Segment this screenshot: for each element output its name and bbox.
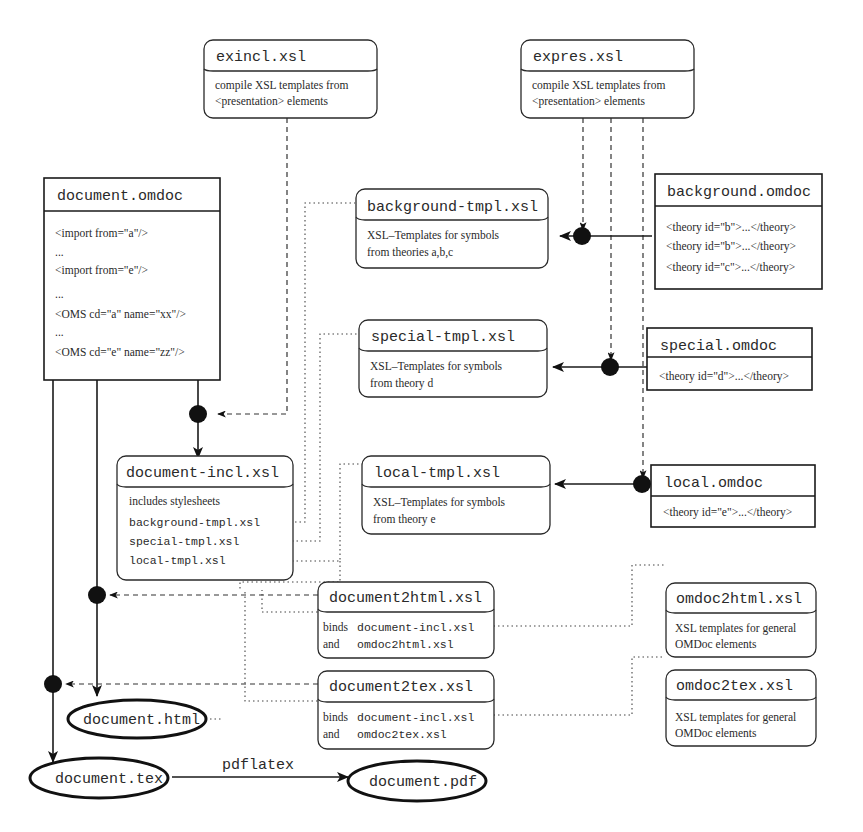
local-tmpl-box: local-tmpl.xsl XSL–Templates for symbols… <box>362 456 550 534</box>
omdoc-xsl-pipeline-diagram: pdflatex exincl.xsl compile XSL template… <box>0 0 863 832</box>
omdoc-line: ... <box>55 246 64 258</box>
document-incl-heading: includes stylesheets <box>129 495 221 508</box>
exincl-title: exincl.xsl <box>216 49 306 66</box>
include-item: special-tmpl.xsl <box>129 535 240 548</box>
incl-background-ref <box>295 203 355 522</box>
background-omdoc-title: background.omdoc <box>667 184 811 201</box>
omdoc2tex-box: omdoc2tex.xsl XSL templates for general … <box>666 670 816 746</box>
binds-target: document-incl.xsl <box>357 621 474 634</box>
omdoc2tex-title: omdoc2tex.xsl <box>676 678 793 695</box>
junction-dot <box>573 227 591 245</box>
background-omdoc-line: <theory id="c">...</theory> <box>666 261 795 274</box>
omdoc2tex-line-1: XSL templates for general <box>675 711 796 724</box>
document-pdf-label: document.pdf <box>369 774 477 791</box>
include-item: background-tmpl.xsl <box>129 516 260 529</box>
document-omdoc-box: document.omdoc <import from="a"/> ... <i… <box>44 178 220 380</box>
expres-title: expres.xsl <box>533 49 623 66</box>
special-tmpl-line-2: from theory d <box>370 377 433 390</box>
local-omdoc-title: local.omdoc <box>664 475 763 492</box>
special-omdoc-box: special.omdoc <theory id="d">...</theory… <box>647 328 812 390</box>
and-word: and <box>323 638 340 650</box>
document-pdf-output: document.pdf <box>348 761 486 801</box>
omdoc-line: ... <box>55 326 64 338</box>
omdoc2html-line-2: OMDoc elements <box>675 638 757 650</box>
special-tmpl-line-1: XSL–Templates for symbols <box>370 360 503 373</box>
background-omdoc-line: <theory id="b">...</theory> <box>666 240 796 253</box>
tex-binds-omdoc2tex-ref <box>480 657 665 715</box>
omdoc2html-box: omdoc2html.xsl XSL templates for general… <box>666 583 816 657</box>
omdoc-line: <OMS cd="a" name="xx"/> <box>55 308 186 320</box>
special-tmpl-title: special-tmpl.xsl <box>371 329 515 346</box>
document-tex-output: document.tex <box>30 758 168 798</box>
document2tex-title: document2tex.xsl <box>329 679 473 696</box>
local-tmpl-line-1: XSL–Templates for symbols <box>373 496 506 509</box>
junction-dot <box>88 586 106 604</box>
omdoc2html-line-1: XSL templates for general <box>675 622 796 635</box>
special-omdoc-title: special.omdoc <box>660 338 777 355</box>
omdoc-line: <import from="a"/> <box>55 227 148 240</box>
exincl-line-2: <presentation> elements <box>215 95 328 108</box>
local-omdoc-box: local.omdoc <theory id="e">...</theory> <box>651 465 815 527</box>
document-tex-label: document.tex <box>55 771 163 788</box>
omdoc-line: <OMS cd="e" name="zz"/> <box>55 346 185 358</box>
and-target: omdoc2tex.xsl <box>357 728 447 741</box>
and-word: and <box>323 728 340 740</box>
binds-word: binds <box>323 711 348 723</box>
document-html-output: document.html <box>68 700 206 738</box>
background-tmpl-box: background-tmpl.xsl XSL–Templates for sy… <box>356 189 548 268</box>
expres-line-1: compile XSL templates from <box>532 79 665 92</box>
expres-box: expres.xsl compile XSL templates from <p… <box>521 40 694 118</box>
html-binds-omdoc2html-ref <box>480 565 665 626</box>
exincl-box: exincl.xsl compile XSL templates from <p… <box>204 40 377 118</box>
omdoc-line: <import from="e"/> <box>55 264 148 277</box>
binds-target: document-incl.xsl <box>357 711 474 724</box>
omdoc2tex-line-2: OMDoc elements <box>675 727 757 739</box>
html-binds-incl-ref <box>262 590 322 612</box>
tex-binds-incl-ref <box>245 590 322 701</box>
document2html-box: document2html.xsl binds document-incl.xs… <box>318 582 494 658</box>
document-html-label: document.html <box>83 712 200 729</box>
omdoc2html-title: omdoc2html.xsl <box>676 591 802 608</box>
exincl-to-doc-connector <box>218 118 287 414</box>
junction-dot <box>633 475 651 493</box>
special-tmpl-box: special-tmpl.xsl XSL–Templates for symbo… <box>359 320 547 397</box>
background-tmpl-title: background-tmpl.xsl <box>367 199 538 216</box>
document2tex-box: document2tex.xsl binds document-incl.xsl… <box>318 671 494 749</box>
exincl-line-1: compile XSL templates from <box>215 79 348 92</box>
omdoc-line: ... <box>55 288 64 300</box>
and-target: omdoc2html.xsl <box>357 638 454 651</box>
special-omdoc-line: <theory id="d">...</theory> <box>659 370 789 383</box>
local-omdoc-line: <theory id="e">...</theory> <box>663 506 792 519</box>
background-tmpl-line-1: XSL–Templates for symbols <box>367 229 500 242</box>
include-item: local-tmpl.xsl <box>129 554 226 567</box>
pdflatex-label: pdflatex <box>222 757 294 774</box>
background-omdoc-box: background.omdoc <theory id="b">...</the… <box>655 174 822 289</box>
document2html-title: document2html.xsl <box>329 590 482 607</box>
junction-dot <box>601 358 619 376</box>
junction-dot <box>44 675 62 693</box>
document-incl-title: document-incl.xsl <box>126 465 279 482</box>
document-omdoc-title: document.omdoc <box>57 188 183 205</box>
expres-line-2: <presentation> elements <box>532 95 645 108</box>
incl-special-ref <box>292 334 360 541</box>
local-tmpl-title: local-tmpl.xsl <box>374 465 500 482</box>
background-omdoc-line: <theory id="b">...</theory> <box>666 221 796 234</box>
binds-word: binds <box>323 621 348 633</box>
local-tmpl-line-2: from theory e <box>373 513 436 526</box>
background-tmpl-line-2: from theories a,b,c <box>367 246 453 259</box>
junction-dot <box>189 405 207 423</box>
document-incl-box: document-incl.xsl includes stylesheets b… <box>117 456 293 580</box>
